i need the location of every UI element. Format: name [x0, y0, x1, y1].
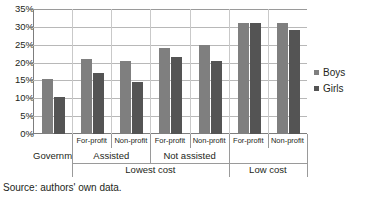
category-label-provider: Non-profit: [268, 134, 307, 148]
legend-item-boys[interactable]: Boys: [314, 64, 372, 80]
bar-group: [191, 9, 230, 134]
table-vertical-rule: [307, 163, 308, 177]
y-tick-mark: [29, 45, 33, 46]
category-label-provider: For-profit: [72, 134, 111, 148]
bars-layer: [34, 9, 307, 134]
bar-girls: [171, 57, 182, 134]
legend-swatch-icon: [314, 86, 319, 91]
table-vertical-rule: [229, 163, 230, 177]
table-vertical-rule: [307, 148, 308, 163]
table-vertical-rule: [307, 134, 308, 148]
y-tick-mark: [29, 9, 33, 10]
bar-boys: [120, 61, 131, 134]
bar-girls: [250, 23, 261, 134]
table-vertical-rule: [190, 134, 191, 148]
legend: BoysGirls: [314, 64, 372, 96]
y-tick-mark: [29, 80, 33, 81]
y-tick-mark: [29, 27, 33, 28]
table-vertical-rule: [72, 148, 73, 163]
bar-boys: [238, 23, 249, 134]
bar-boys: [277, 23, 288, 134]
category-label-provider: Non-profit: [190, 134, 229, 148]
y-tick-mark: [29, 63, 33, 64]
legend-label: Boys: [323, 67, 345, 78]
category-label-assistance: Not assisted: [150, 148, 228, 163]
table-vertical-rule: [229, 134, 230, 148]
table-vertical-rule: [229, 148, 230, 163]
category-label-cost: Low cost: [229, 163, 307, 177]
bar-girls: [289, 30, 300, 134]
category-label-provider: For-profit: [229, 134, 268, 148]
table-horizontal-rule: [72, 163, 307, 164]
table-vertical-rule: [111, 134, 112, 148]
category-label-provider: For-profit: [150, 134, 189, 148]
category-label-cost: Lowest cost: [72, 163, 229, 177]
category-axis-table: For-profitNon-profitFor-profitNon-profit…: [33, 134, 307, 177]
table-vertical-rule: [150, 134, 151, 148]
bar-boys: [81, 59, 92, 134]
category-label-provider: Non-profit: [111, 134, 150, 148]
source-caption: Source: authors' own data.: [3, 182, 122, 194]
bar-group: [230, 9, 269, 134]
legend-item-girls[interactable]: Girls: [314, 80, 372, 96]
bar-girls: [211, 61, 222, 134]
table-vertical-rule: [72, 134, 73, 148]
table-vertical-rule: [268, 134, 269, 148]
bar-group: [112, 9, 151, 134]
bar-group: [269, 9, 308, 134]
legend-swatch-icon: [314, 70, 319, 75]
bar-girls: [54, 97, 65, 135]
bar-group: [151, 9, 190, 134]
table-vertical-rule: [150, 148, 151, 163]
bar-boys: [159, 48, 170, 134]
bar-boys: [42, 79, 53, 134]
bar-group: [34, 9, 73, 134]
category-label-assistance: Assisted: [72, 148, 150, 163]
y-tick-mark: [29, 98, 33, 99]
y-tick-mark: [29, 116, 33, 117]
bar-chart-figure: 0%5%10%15%20%25%30%35% BoysGirls For-pro…: [0, 0, 375, 199]
category-label-assistance: Government: [33, 148, 72, 163]
bar-boys: [199, 45, 210, 134]
legend-label: Girls: [323, 83, 344, 94]
table-vertical-rule: [72, 163, 73, 177]
bar-girls: [93, 73, 104, 134]
bar-group: [73, 9, 112, 134]
bar-girls: [132, 82, 143, 134]
plot-area: [33, 9, 307, 134]
